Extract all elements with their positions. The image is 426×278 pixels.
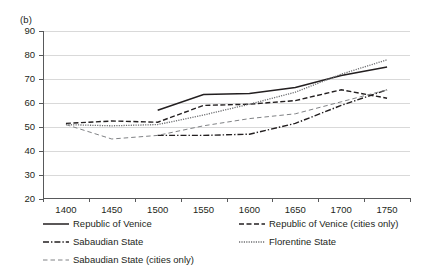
x-axis-label: 1700 xyxy=(331,205,352,215)
x-axis-tick xyxy=(410,198,411,202)
legend-label: Republic of Venice (cities only) xyxy=(269,218,398,229)
y-axis-label: 60 xyxy=(0,98,35,108)
legend-item[interactable]: Sabaudian State xyxy=(43,236,143,247)
legend-label: Republic of Venice xyxy=(73,218,152,229)
x-axis-label: 1400 xyxy=(55,205,76,215)
legend-line-swatch xyxy=(43,237,69,247)
y-axis-label: 70 xyxy=(0,74,35,84)
x-axis-label: 1750 xyxy=(376,205,397,215)
y-axis-label: 50 xyxy=(0,122,35,132)
x-axis-label: 1650 xyxy=(285,205,306,215)
legend-label: Florentine State xyxy=(269,236,336,247)
chart-figure: (b) 2030405060708090 1400145015001550160… xyxy=(0,0,426,278)
y-axis-label: 40 xyxy=(0,146,35,156)
x-axis-label: 1550 xyxy=(193,205,214,215)
legend-line-swatch xyxy=(43,219,69,229)
series-line xyxy=(158,67,387,110)
legend-item[interactable]: Florentine State xyxy=(239,236,336,247)
legend-item[interactable]: Republic of Venice xyxy=(43,218,152,229)
x-axis-label: 1450 xyxy=(101,205,122,215)
chart-legend: Republic of VeniceRepublic of Venice (ci… xyxy=(43,218,421,272)
y-axis-label: 20 xyxy=(0,194,35,204)
series-line xyxy=(66,90,387,139)
legend-line-swatch xyxy=(239,219,265,229)
series-line xyxy=(66,60,387,126)
legend-item[interactable]: Republic of Venice (cities only) xyxy=(239,218,398,229)
y-axis-label: 80 xyxy=(0,50,35,60)
x-axis-label: 1500 xyxy=(147,205,168,215)
panel-label: (b) xyxy=(20,14,32,25)
legend-label: Sabaudian State (cities only) xyxy=(73,254,194,265)
legend-line-swatch xyxy=(239,237,265,247)
x-axis-label: 1600 xyxy=(239,205,260,215)
y-axis-label: 30 xyxy=(0,170,35,180)
y-axis-label: 90 xyxy=(0,26,35,36)
legend-label: Sabaudian State xyxy=(73,236,143,247)
legend-item[interactable]: Sabaudian State (cities only) xyxy=(43,254,194,265)
legend-line-swatch xyxy=(43,255,69,265)
plot-area xyxy=(43,31,410,199)
series-lines xyxy=(43,31,410,199)
